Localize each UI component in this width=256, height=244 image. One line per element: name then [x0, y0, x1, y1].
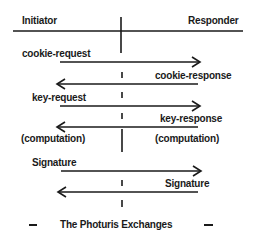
cookie-response-label: cookie-response: [155, 70, 231, 82]
key-request-label: key-request: [32, 92, 86, 104]
signature-request-arrow: [61, 166, 201, 176]
cookie-request-label: cookie-request: [22, 48, 90, 60]
initiator-computation-label: (computation): [21, 133, 85, 145]
diagram-caption: The Photuris Exchanges: [60, 219, 172, 231]
initiator-label: Initiator: [22, 15, 57, 27]
signature-response-label: Signature: [165, 178, 209, 190]
key-response-label: key-response: [160, 113, 222, 125]
signature-request-label: Signature: [32, 157, 76, 169]
responder-label: Responder: [188, 15, 238, 27]
responder-computation-label: (computation): [155, 133, 219, 145]
